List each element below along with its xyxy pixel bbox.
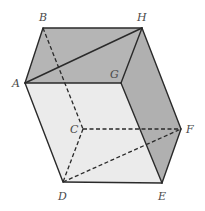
vertex-label-A: A bbox=[11, 77, 20, 90]
vertex-label-G: G bbox=[110, 68, 119, 81]
vertex-label-B: B bbox=[38, 11, 47, 24]
vertex-label-D: D bbox=[57, 190, 67, 203]
vertex-label-H: H bbox=[136, 11, 147, 24]
vertex-label-E: E bbox=[157, 190, 166, 203]
edge-ED bbox=[63, 182, 162, 183]
vertex-label-F: F bbox=[185, 123, 194, 136]
parallelepiped-diagram: A B H G C F D E bbox=[0, 0, 205, 211]
vertex-label-C: C bbox=[70, 123, 79, 136]
